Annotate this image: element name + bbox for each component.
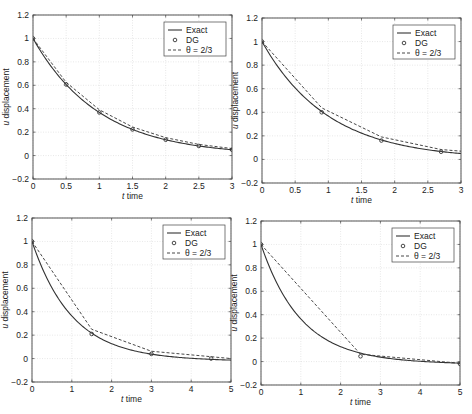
legend: ExactDGθ = 2/3 [393, 25, 455, 59]
legend: ExactDGθ = 2/3 [392, 228, 454, 262]
x-tick-label: 2.5 [422, 185, 434, 195]
x-axis-label: t time [351, 195, 372, 205]
y-tick-label: 1 [24, 33, 29, 43]
x-tick-label: 0 [31, 181, 36, 191]
y-tick-label: 0 [252, 357, 257, 367]
y-tick-label: 0.4 [16, 307, 28, 317]
x-tick-label: 3 [378, 387, 383, 397]
subplot-1: 00.511.522.53−0.200.20.40.60.811.2t time… [1, 10, 235, 201]
x-tick-label: 1 [69, 384, 74, 394]
y-tick-label: 0 [24, 151, 29, 161]
x-tick-label: 2 [392, 185, 397, 195]
x-tick-label: 2 [163, 181, 168, 191]
subplot-2: 00.511.522.53−0.200.20.40.60.811.2t time… [230, 13, 464, 205]
x-tick-label: 0.5 [60, 181, 72, 191]
y-tick-label: 0.8 [16, 260, 28, 270]
y-tick-label: 0.8 [246, 60, 258, 70]
y-tick-label: 0.6 [245, 286, 257, 296]
x-tick-label: 4 [189, 384, 194, 394]
x-tick-label: 1.5 [127, 181, 139, 191]
y-axis-label: u displacement [0, 271, 10, 329]
x-tick-label: 2 [338, 387, 343, 397]
x-axis-label: t time [122, 191, 143, 201]
y-tick-label: 0.6 [16, 283, 28, 293]
x-tick-label: 1.5 [356, 185, 368, 195]
x-tick-label: 2 [109, 384, 114, 394]
x-tick-label: 0 [259, 387, 264, 397]
legend-label: Exact [415, 28, 437, 38]
y-tick-label: 0 [23, 354, 28, 364]
y-tick-label: −0.2 [12, 174, 29, 184]
y-tick-label: 1.2 [16, 213, 28, 223]
legend-label: Exact [186, 25, 208, 35]
y-axis-label: u displacement [1, 68, 11, 126]
legend-label: θ = 2/3 [415, 48, 442, 58]
legend-label: DG [415, 38, 428, 48]
legend-label: DG [414, 241, 427, 251]
y-tick-label: 0.2 [16, 330, 28, 340]
x-tick-label: 0.5 [289, 185, 301, 195]
subplot-4: 012345−0.200.20.40.60.811.2t timeu displ… [229, 216, 463, 407]
legend: ExactDGθ = 2/3 [163, 225, 225, 259]
legend-label: θ = 2/3 [186, 45, 213, 55]
legend-label: Exact [414, 231, 436, 241]
y-tick-label: 0.4 [245, 310, 257, 320]
legend-label: DG [186, 35, 199, 45]
x-axis-label: t time [121, 394, 142, 404]
y-axis-label: u displacement [230, 71, 240, 129]
x-tick-label: 1 [97, 181, 102, 191]
x-tick-label: 3 [230, 181, 235, 191]
y-tick-label: 0.4 [17, 104, 29, 114]
legend-label: θ = 2/3 [414, 251, 441, 261]
y-tick-label: 0.6 [246, 84, 258, 94]
y-tick-label: 1.2 [245, 216, 257, 226]
y-tick-label: 0.2 [245, 333, 257, 343]
y-tick-label: 0 [253, 154, 258, 164]
legend-label: θ = 2/3 [185, 248, 212, 258]
x-tick-label: 5 [229, 384, 234, 394]
y-tick-label: 0.8 [245, 263, 257, 273]
x-tick-label: 1 [298, 387, 303, 397]
y-tick-label: 1 [252, 239, 257, 249]
legend: ExactDGθ = 2/3 [164, 22, 226, 56]
x-tick-label: 2.5 [193, 181, 205, 191]
y-tick-label: 1 [253, 37, 258, 47]
legend-label: Exact [185, 228, 207, 238]
figure-canvas: 00.511.522.53−0.200.20.40.60.811.2t time… [0, 0, 472, 414]
x-axis-label: t time [350, 397, 371, 407]
y-tick-label: 0.6 [17, 80, 29, 90]
x-tick-label: 1 [326, 185, 331, 195]
y-tick-label: −0.2 [11, 377, 28, 387]
x-tick-label: 0 [30, 384, 35, 394]
y-tick-label: 0.2 [17, 127, 29, 137]
y-tick-label: −0.2 [241, 178, 258, 188]
dg-point [359, 355, 363, 359]
y-tick-label: 0.8 [17, 57, 29, 67]
y-tick-label: 1 [23, 236, 28, 246]
x-tick-label: 4 [418, 387, 423, 397]
y-tick-label: −0.2 [240, 380, 257, 390]
y-tick-label: 1.2 [17, 10, 29, 20]
y-tick-label: 0.4 [246, 107, 258, 117]
x-tick-label: 3 [459, 185, 464, 195]
x-tick-label: 0 [260, 185, 265, 195]
y-tick-label: 0.2 [246, 131, 258, 141]
y-axis-label: u displacement [229, 274, 239, 332]
legend-label: DG [185, 238, 198, 248]
subplot-3: 012345−0.200.20.40.60.811.2t timeu displ… [0, 213, 234, 404]
y-tick-label: 1.2 [246, 13, 258, 23]
x-tick-label: 3 [149, 384, 154, 394]
x-tick-label: 5 [458, 387, 463, 397]
